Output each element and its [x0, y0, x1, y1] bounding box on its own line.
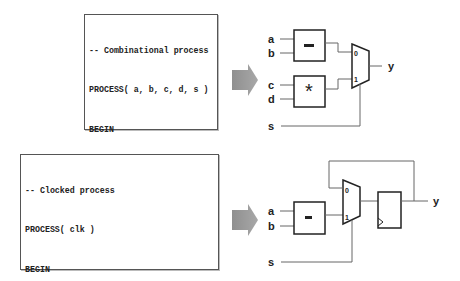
output-label-y: y — [433, 195, 440, 207]
input-label-a: a — [268, 205, 275, 217]
subtract-symbol — [305, 216, 312, 219]
input-label-b: b — [268, 220, 275, 232]
clocked-circuit — [280, 161, 428, 262]
input-label-a: a — [268, 33, 275, 45]
mux-input-1: 1 — [354, 76, 358, 83]
diagram-canvas: a b c d s y * 0 1 a b s y 0 1 — [0, 0, 460, 281]
mux-input-1: 1 — [345, 214, 349, 221]
input-label-s: s — [268, 120, 274, 132]
input-label-d: d — [268, 93, 275, 105]
arrow-icon — [232, 204, 258, 236]
arrow-icon — [232, 64, 258, 96]
output-label-y: y — [388, 60, 395, 72]
mux-input-0: 0 — [345, 187, 349, 194]
combinational-circuit — [280, 30, 382, 126]
mux-input-0: 0 — [354, 50, 358, 57]
input-label-c: c — [268, 79, 274, 91]
multiply-symbol: * — [305, 80, 313, 102]
input-label-b: b — [268, 47, 275, 59]
subtract-symbol — [304, 44, 314, 47]
input-label-s: s — [268, 256, 274, 268]
